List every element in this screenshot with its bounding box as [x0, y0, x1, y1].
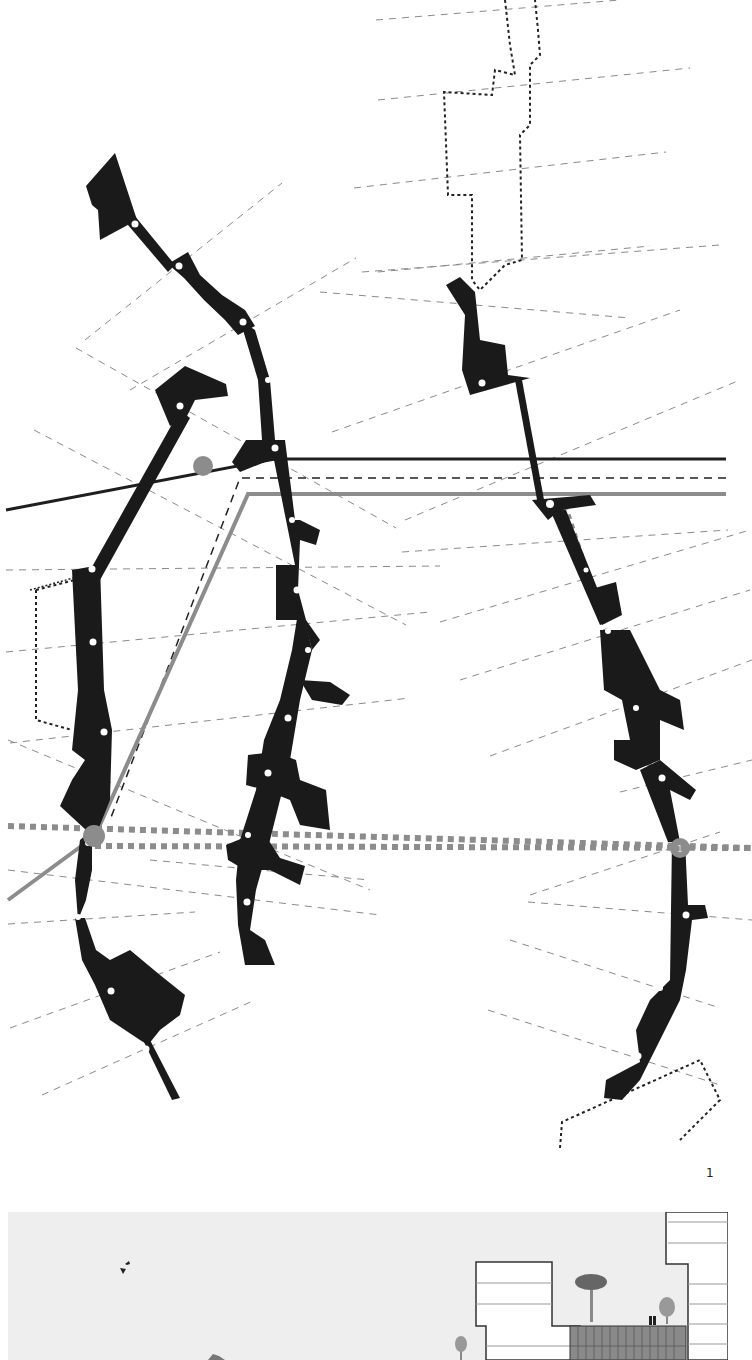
building-footprints [60, 153, 708, 1100]
node-dots [75, 221, 690, 1060]
gray-node-left [83, 825, 105, 847]
gray-node-right-label: 1 [677, 844, 683, 854]
gray-node-top [193, 456, 213, 476]
section-elevation-image [8, 1212, 728, 1360]
figure-number: 1 [706, 1166, 714, 1180]
route-gray-dotted-horizontal [95, 846, 752, 848]
site-plan-diagram: 1 [0, 0, 752, 1160]
facade-panel [570, 1326, 686, 1360]
